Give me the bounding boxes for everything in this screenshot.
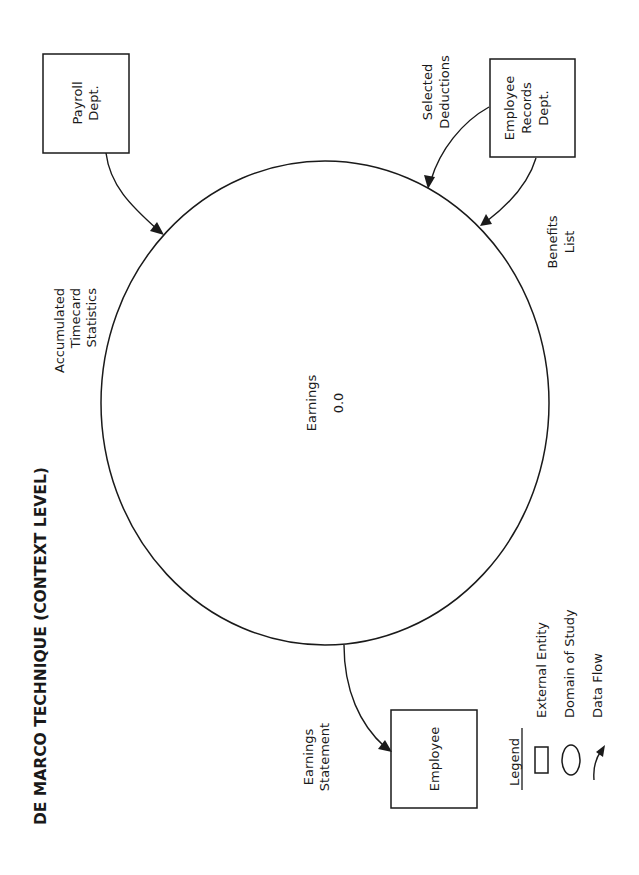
svg-text:Employee: Employee [427, 727, 442, 791]
svg-text:Deductions: Deductions [437, 55, 452, 129]
ellipse-icon [562, 745, 580, 775]
entity-employee: Employee [391, 710, 477, 808]
flow-arrow-line [106, 153, 158, 230]
svg-text:List: List [562, 231, 577, 254]
process-earnings: Earnings 0.0 [101, 161, 549, 645]
context-diagram: DE MARCO TECHNIQUE (CONTEXT LEVEL) Earni… [0, 0, 639, 875]
legend-heading: Legend [507, 738, 522, 786]
svg-text:Timecard: Timecard [68, 288, 83, 349]
arrowhead-icon [480, 214, 492, 226]
flow-benefits-list: Benefits List [480, 158, 577, 269]
flow-arrow-line [487, 158, 536, 221]
svg-text:Accumulated: Accumulated [52, 288, 67, 373]
svg-text:Statistics: Statistics [84, 288, 99, 348]
svg-text:Benefits: Benefits [545, 215, 560, 268]
svg-text:Payroll: Payroll [70, 81, 85, 124]
svg-text:DE MARCO TECHNIQUE (CONTEXT LE: DE MARCO TECHNIQUE (CONTEXT LEVEL) [32, 467, 50, 825]
flow-earnings-statement: Earnings Statement [301, 645, 392, 791]
svg-text:Dept.: Dept. [86, 85, 101, 121]
svg-text:Statement: Statement [317, 723, 332, 791]
svg-text:Selected: Selected [420, 64, 435, 120]
svg-text:Employee: Employee [502, 76, 517, 140]
flow-selected-deductions: Selected Deductions [420, 55, 489, 189]
svg-text:Earnings: Earnings [301, 729, 316, 786]
svg-text:Data Flow: Data Flow [590, 653, 605, 718]
process-number: 0.0 [331, 393, 346, 414]
svg-text:External Entity: External Entity [534, 622, 549, 718]
process-name: Earnings [304, 375, 319, 432]
legend-item-external-entity: External Entity [534, 622, 549, 773]
diagram-title: DE MARCO TECHNIQUE (CONTEXT LEVEL) [32, 467, 50, 825]
flow-arrow-line [344, 645, 385, 747]
entity-employee-records-dept: Employee Records Dept. [490, 59, 575, 157]
legend-item-domain-of-study: Domain of Study [562, 609, 580, 775]
legend-item-data-flow: Data Flow [590, 653, 605, 780]
legend: Legend External Entity Domain of Study D… [507, 609, 605, 790]
rectangle-icon [535, 747, 548, 773]
arrow-icon [594, 751, 601, 780]
entity-payroll-dept: Payroll Dept. [43, 54, 129, 153]
process-ellipse [101, 161, 549, 645]
svg-text:Dept.: Dept. [536, 90, 551, 126]
arrowhead-icon [596, 745, 605, 757]
svg-text:Records: Records [519, 82, 534, 134]
svg-text:Domain of Study: Domain of Study [562, 609, 577, 718]
